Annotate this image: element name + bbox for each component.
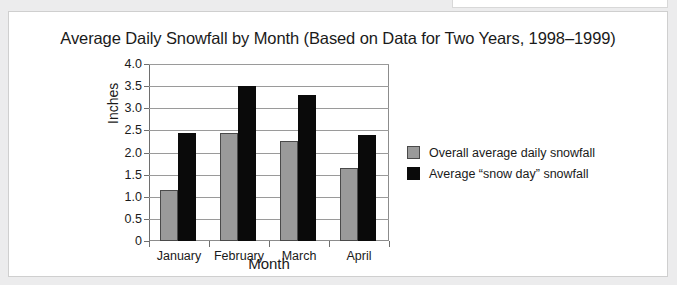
y-tick-label: 1.5	[125, 168, 142, 182]
bar-group	[209, 64, 269, 241]
page-fragment-above	[452, 0, 668, 8]
x-tick-mark	[209, 241, 210, 247]
legend-swatch-series2	[407, 167, 420, 180]
y-tick-label: 0	[135, 234, 142, 248]
bar-march-series2	[298, 95, 316, 241]
bar-january-series2	[178, 133, 196, 241]
y-tick-label: 4.0	[125, 57, 142, 71]
chart-title: Average Daily Snowfall by Month (Based o…	[9, 29, 667, 48]
y-axis-title: Inches	[105, 83, 121, 124]
legend-label-series1: Overall average daily snowfall	[429, 146, 595, 160]
legend-item: Average “snow day” snowfall	[407, 163, 595, 184]
bar-group	[329, 64, 389, 241]
x-tick-mark	[329, 241, 330, 247]
bar-april-series1	[340, 168, 358, 241]
legend-label-series2: Average “snow day” snowfall	[429, 167, 589, 181]
bar-february-series1	[220, 133, 238, 241]
bar-february-series2	[238, 86, 256, 241]
plot-area: 00.51.01.52.02.53.03.54.0 JanuaryFebruar…	[149, 64, 389, 241]
y-tick-label: 1.0	[125, 190, 142, 204]
bar-january-series1	[160, 190, 178, 241]
x-tick-mark	[389, 241, 390, 247]
x-tick-mark	[149, 241, 150, 247]
legend-item: Overall average daily snowfall	[407, 142, 595, 163]
bar-march-series1	[280, 141, 298, 241]
figure-card: Average Daily Snowfall by Month (Based o…	[8, 11, 668, 277]
y-tick-label: 2.5	[125, 123, 142, 137]
bar-group	[149, 64, 209, 241]
legend-swatch-series1	[407, 146, 420, 159]
x-tick-mark	[269, 241, 270, 247]
bar-april-series2	[358, 135, 376, 241]
bar-group	[269, 64, 329, 241]
y-tick-label: 2.0	[125, 146, 142, 160]
y-tick-label: 0.5	[125, 212, 142, 226]
y-tick-label: 3.5	[125, 79, 142, 93]
chart-legend: Overall average daily snowfallAverage “s…	[407, 142, 595, 184]
y-tick-label: 3.0	[125, 101, 142, 115]
x-axis-title: Month	[149, 255, 389, 272]
